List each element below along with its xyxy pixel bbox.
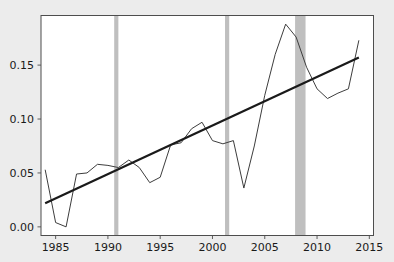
plot-area-background bbox=[41, 16, 374, 236]
x-axis-tick-label: 2000 bbox=[198, 241, 226, 254]
x-axis-tick-label: 2005 bbox=[251, 241, 279, 254]
x-axis-tick-label: 1985 bbox=[42, 241, 70, 254]
x-axis-tick-label: 2010 bbox=[303, 241, 331, 254]
x-axis-tick-label: 1995 bbox=[146, 241, 174, 254]
y-axis-tick-label: 0.00 bbox=[10, 221, 35, 234]
line-chart-figure: 0.000.050.100.15 19851990199520002005201… bbox=[0, 0, 394, 262]
recession-band-2 bbox=[225, 16, 229, 236]
y-axis-tick-label: 0.05 bbox=[10, 167, 35, 180]
recession-band-1 bbox=[114, 16, 118, 236]
y-axis-tick-label: 0.15 bbox=[10, 59, 35, 72]
y-axis-tick-label: 0.10 bbox=[10, 113, 35, 126]
chart-container: 0.000.050.100.15 19851990199520002005201… bbox=[0, 0, 394, 262]
x-axis-tick-label: 1990 bbox=[94, 241, 122, 254]
x-axis-tick-label: 2015 bbox=[355, 241, 383, 254]
